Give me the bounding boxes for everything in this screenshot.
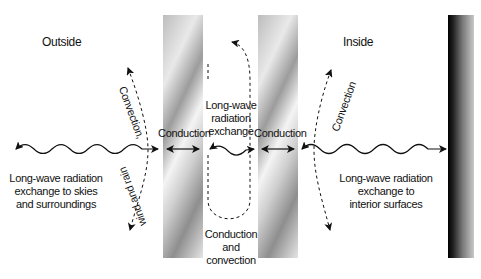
cavity-convection-line-1: Conduction (203, 228, 259, 241)
heat-transfer-diagram: Outside Inside Long-wave radiation excha… (0, 0, 481, 279)
inner-radiation-wave-icon (302, 145, 446, 154)
outer-radiation-wave-icon (16, 145, 158, 154)
cavity-radiation-line-2: radiation (203, 112, 259, 125)
cavity-radiation-label: Long-wave radiation exchange (203, 99, 259, 138)
outer-radiation-line-3: and surroundings (2, 198, 110, 211)
inner-radiation-label: Long-wave radiation exchange to interior… (336, 172, 436, 211)
outer-radiation-label: Long-wave radiation exchange to skies an… (2, 172, 110, 211)
outer-radiation-line-2: exchange to skies (2, 185, 110, 198)
outer-radiation-line-1: Long-wave radiation (2, 172, 110, 185)
cavity-convection-label: Conduction and convection (203, 228, 259, 267)
cavity-radiation-line-1: Long-wave (203, 99, 259, 112)
inner-radiation-line-1: Long-wave radiation (336, 172, 436, 185)
cavity-convection-line-3: convection (203, 254, 259, 267)
cavity-radiation-line-3: exchange (203, 125, 259, 138)
inner-radiation-line-3: interior surfaces (336, 198, 436, 211)
inner-radiation-line-2: exchange to (336, 185, 436, 198)
cavity-radiation-wave-icon (210, 146, 254, 155)
inner-convection-arrow-icon (314, 70, 331, 230)
inside-label: Inside (343, 36, 373, 49)
conduction-right-label: Conduction (254, 127, 307, 140)
cavity-convection-line-2: and (203, 241, 259, 254)
outside-label: Outside (42, 36, 81, 49)
